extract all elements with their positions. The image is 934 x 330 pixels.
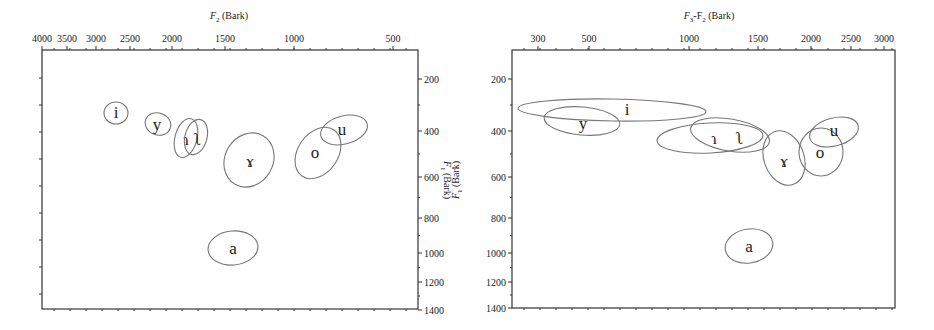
vowel-ellipse: ɤ: [756, 125, 813, 191]
right-plot-frame: [512, 50, 895, 308]
vowel-label: a: [745, 237, 753, 256]
vowel-label: o: [311, 143, 320, 162]
vowel-label: ɤ: [246, 152, 254, 171]
right-vowel-ellipses: iyɿʅɤoua: [518, 97, 862, 267]
y-tick-label: 1200: [486, 277, 506, 288]
vowel-label: u: [338, 120, 347, 139]
ellipse-outline: [656, 120, 763, 156]
vowel-label: ɤ: [780, 152, 788, 171]
y-tick-label: 800: [424, 213, 439, 224]
x-tick-label: 2500: [120, 33, 140, 44]
vowel-label: ʅ: [735, 129, 743, 148]
y-tick-label: 1400: [486, 303, 506, 314]
vowel-ellipse: i: [104, 102, 128, 124]
vowel-label: a: [229, 239, 237, 258]
vowel-label: ɿ: [711, 129, 717, 148]
vowel-ellipse: u: [317, 110, 371, 149]
f2-f1-chart: F2 (Bark) 400035003000250020001500100050…: [32, 10, 453, 316]
f3f2-f1-chart: F3-F2 (Bark) 30050010001500200025003000 …: [450, 10, 895, 314]
y-tick-label: 400: [491, 126, 506, 137]
x-tick-label: 3000: [86, 33, 106, 44]
vowel-label: u: [830, 121, 839, 140]
vowel-ellipse: ʅ: [688, 112, 772, 157]
x-tick-label: 3000: [874, 33, 894, 44]
x-tick-label: 2000: [162, 33, 182, 44]
vowel-label: y: [153, 115, 162, 134]
x-tick-label: 1000: [679, 33, 699, 44]
vowel-ellipse: a: [722, 225, 775, 267]
y-tick-label: 1200: [424, 277, 444, 288]
x-tick-label: 1500: [215, 33, 235, 44]
x-tick-label: 3500: [57, 33, 77, 44]
vowel-ellipse: ɿ: [656, 120, 763, 156]
y-tick-label: 400: [424, 126, 439, 137]
x-tick-label: 1500: [748, 33, 768, 44]
vowel-ellipse: i: [518, 97, 706, 122]
vowel-ellipse: a: [207, 229, 260, 267]
y-tick-label: 1400: [424, 305, 444, 316]
vowel-ellipse: y: [142, 109, 174, 139]
x-tick-label: 300: [531, 33, 546, 44]
ellipse-outline: [518, 97, 706, 122]
y-tick-label: 1000: [486, 248, 506, 259]
right-y-axis-title: F1 (Bark): [450, 161, 464, 200]
vowel-label: ʅ: [193, 130, 201, 149]
y-tick-label: 600: [491, 172, 506, 183]
left-vowel-ellipses: iyɿʅɤoua: [104, 102, 371, 267]
y-tick-label: 200: [491, 74, 506, 85]
vowel-ellipse: ɤ: [214, 124, 284, 196]
y-tick-label: 800: [491, 213, 506, 224]
right-y-ticks: 200400600800100012001400: [486, 74, 512, 314]
x-tick-label: 500: [582, 33, 597, 44]
vowel-label: i: [114, 103, 119, 122]
y-tick-label: 1000: [424, 248, 444, 259]
right-x-ticks: 30050010001500200025003000: [524, 33, 894, 310]
vowel-label: i: [625, 100, 630, 119]
x-tick-label: 2500: [841, 33, 861, 44]
y-tick-label: 600: [424, 172, 439, 183]
x-tick-label: 2000: [801, 33, 821, 44]
y-tick-label: 200: [424, 74, 439, 85]
left-x-ticks: 4000350030002500200015001000500: [32, 33, 406, 311]
x-tick-label: 500: [386, 33, 401, 44]
right-x-axis-title: F3-F2 (Bark): [683, 10, 735, 24]
x-tick-label: 1000: [284, 33, 304, 44]
vowel-label: y: [579, 114, 588, 133]
left-y-ticks: 200400600800100012001400: [39, 74, 444, 316]
ellipse-outline: [688, 112, 772, 157]
vowel-formant-charts: F2 (Bark) 400035003000250020001500100050…: [0, 0, 934, 330]
left-x-axis-title: F2 (Bark): [209, 10, 248, 24]
x-tick-label: 4000: [32, 33, 52, 44]
vowel-ellipse: u: [806, 112, 862, 152]
